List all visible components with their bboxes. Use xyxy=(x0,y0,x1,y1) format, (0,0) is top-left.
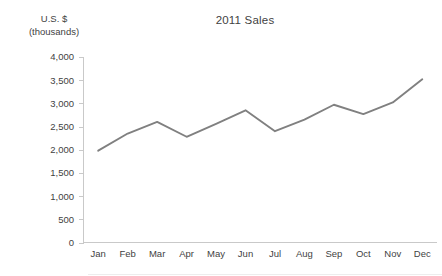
x-tick-label: Dec xyxy=(414,248,431,259)
bottom-divider xyxy=(88,274,442,275)
x-tick-label: Jul xyxy=(269,248,281,259)
x-tick-label-group: JanFebMarAprMayJunJulAugSepOctNovDec xyxy=(91,248,431,259)
y-tick-label: 1,500 xyxy=(50,167,74,178)
y-tick-label: 1,000 xyxy=(50,191,74,202)
x-tick-label: Oct xyxy=(356,248,371,259)
y-tick-label: 2,000 xyxy=(50,144,74,155)
x-tick-label: Mar xyxy=(149,248,165,259)
y-tick-label: 0 xyxy=(69,237,74,248)
x-tick-label: Aug xyxy=(296,248,313,259)
x-tick-label: May xyxy=(207,248,225,259)
x-tick-label: Sep xyxy=(325,248,342,259)
x-tick-label: Jan xyxy=(91,248,106,259)
x-tick-label: Jun xyxy=(238,248,253,259)
x-tick-label: Feb xyxy=(120,248,136,259)
y-tick-label-group: 05001,0001,5002,0002,5003,0003,5004,000 xyxy=(50,51,74,248)
y-tick-mark-group xyxy=(79,58,84,244)
x-tick-label: Nov xyxy=(384,248,401,259)
series-line-2011-sales xyxy=(98,79,422,150)
plot-area: 05001,0001,5002,0002,5003,0003,5004,000 … xyxy=(0,0,442,276)
y-tick-label: 3,000 xyxy=(50,98,74,109)
y-tick-label: 4,000 xyxy=(50,51,74,62)
y-tick-label: 500 xyxy=(58,214,74,225)
x-tick-label: Apr xyxy=(179,248,194,259)
y-tick-label: 3,500 xyxy=(50,75,74,86)
sales-line-chart-figure: U.S. $ (thousands) 2011 Sales 05001,0001… xyxy=(0,0,442,276)
y-tick-label: 2,500 xyxy=(50,121,74,132)
